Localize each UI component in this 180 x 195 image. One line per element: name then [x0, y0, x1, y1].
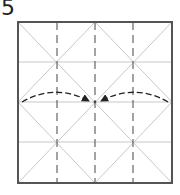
- right-fold-arrow-icon: [101, 92, 168, 102]
- center-point-icon: [94, 101, 97, 104]
- origami-diagram: [0, 0, 180, 195]
- left-fold-arrow-icon: [22, 92, 89, 102]
